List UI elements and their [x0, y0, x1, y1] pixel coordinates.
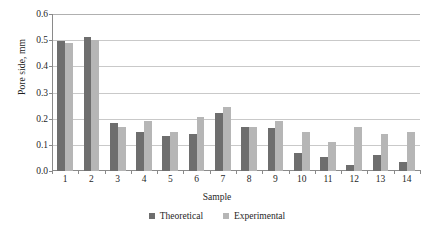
x-axis-tick-label: 2	[78, 174, 104, 184]
bar-experimental-7	[223, 107, 231, 171]
bar-theoretical-14	[399, 162, 407, 171]
x-axis-tick-mark	[262, 170, 263, 174]
x-axis-tick-label: 10	[289, 174, 315, 184]
bar-group	[210, 14, 236, 171]
x-axis-tick-label: 12	[341, 174, 367, 184]
bar-experimental-4	[144, 121, 152, 172]
legend-entry-experimental[interactable]: Experimental	[223, 211, 285, 221]
bar-experimental-13	[381, 134, 389, 171]
bar-experimental-11	[328, 142, 336, 171]
legend-entry-theoretical[interactable]: Theoretical	[149, 211, 203, 221]
bar-theoretical-5	[162, 136, 170, 171]
bar-experimental-6	[197, 117, 205, 171]
bar-group	[315, 14, 341, 171]
x-axis-tick-label: 8	[236, 174, 262, 184]
legend-label-experimental: Experimental	[234, 211, 285, 221]
y-axis-tick-label: 0.6	[14, 9, 48, 19]
x-axis-title: Sample	[0, 192, 434, 202]
legend-swatch-icon-experimental	[223, 213, 229, 219]
x-axis-tick-mark	[131, 170, 132, 174]
bar-experimental-3	[118, 127, 126, 171]
bars-layer	[52, 14, 420, 171]
bar-theoretical-11	[320, 157, 328, 171]
x-axis-tick-mark	[315, 170, 316, 174]
bar-chart-figure: Pore side, mm 0.00.10.20.30.40.50.6 1234…	[0, 0, 434, 236]
y-axis-tick-label: 0.3	[14, 88, 48, 98]
x-axis-tick-mark	[105, 170, 106, 174]
x-axis-tick-label: 13	[368, 174, 394, 184]
x-axis-tick-label: 4	[131, 174, 157, 184]
legend-swatch-icon-theoretical	[149, 213, 155, 219]
bar-theoretical-9	[268, 128, 276, 171]
bar-experimental-2	[91, 40, 99, 171]
bar-group	[262, 14, 288, 171]
bar-theoretical-13	[373, 155, 381, 171]
bar-theoretical-12	[346, 165, 354, 171]
x-axis-tick-label: 11	[315, 174, 341, 184]
x-axis-tick-mark	[420, 170, 421, 174]
y-axis-tick-label: 0.4	[14, 61, 48, 71]
y-axis-tick-label: 0.5	[14, 35, 48, 45]
x-axis-tick-mark	[367, 170, 368, 174]
x-axis-tick-mark	[183, 170, 184, 174]
bar-experimental-1	[65, 43, 73, 171]
bar-group	[367, 14, 393, 171]
x-axis-tick-mark	[341, 170, 342, 174]
bar-experimental-10	[302, 132, 310, 171]
bar-group	[236, 14, 262, 171]
bar-experimental-9	[275, 121, 283, 172]
bar-experimental-14	[407, 132, 415, 171]
x-axis-tick-label: 6	[184, 174, 210, 184]
bar-theoretical-1	[57, 41, 65, 171]
bar-group	[78, 14, 104, 171]
bar-group	[183, 14, 209, 171]
bar-experimental-12	[354, 127, 362, 171]
bar-theoretical-4	[136, 132, 144, 171]
x-axis-tick-mark	[157, 170, 158, 174]
x-axis-tick-mark	[394, 170, 395, 174]
bar-theoretical-7	[215, 113, 223, 171]
x-axis-tick-mark	[210, 170, 211, 174]
x-axis-tick-label: 7	[210, 174, 236, 184]
bar-group	[157, 14, 183, 171]
y-axis-tick-label: 0.1	[14, 140, 48, 150]
x-axis-tick-label: 14	[394, 174, 420, 184]
bar-group	[341, 14, 367, 171]
y-axis-tick-label: 0.2	[14, 114, 48, 124]
x-axis-tick-label: 9	[262, 174, 288, 184]
x-axis-tick-mark	[236, 170, 237, 174]
x-axis-tick-mark	[52, 170, 53, 174]
bar-group	[131, 14, 157, 171]
x-axis-tick-mark	[289, 170, 290, 174]
bar-theoretical-2	[84, 37, 92, 171]
bar-theoretical-3	[110, 123, 118, 171]
bar-theoretical-10	[294, 153, 302, 171]
x-axis-tick-mark	[78, 170, 79, 174]
x-axis-tick-label: 1	[52, 174, 78, 184]
bar-group	[52, 14, 78, 171]
bar-theoretical-6	[189, 134, 197, 171]
x-axis-tick-labels: 1234567891011121314	[52, 174, 420, 190]
bar-experimental-8	[249, 127, 257, 171]
bar-group	[105, 14, 131, 171]
bar-group	[394, 14, 420, 171]
x-axis-tick-label: 5	[157, 174, 183, 184]
bar-experimental-5	[170, 132, 178, 171]
bar-theoretical-8	[241, 127, 249, 171]
x-axis-tick-label: 3	[105, 174, 131, 184]
legend-label-theoretical: Theoretical	[160, 211, 203, 221]
plot-area	[52, 14, 420, 171]
y-axis-tick-label: 0.0	[14, 166, 48, 176]
bar-group	[289, 14, 315, 171]
chart-legend: Theoretical Experimental	[0, 211, 434, 221]
